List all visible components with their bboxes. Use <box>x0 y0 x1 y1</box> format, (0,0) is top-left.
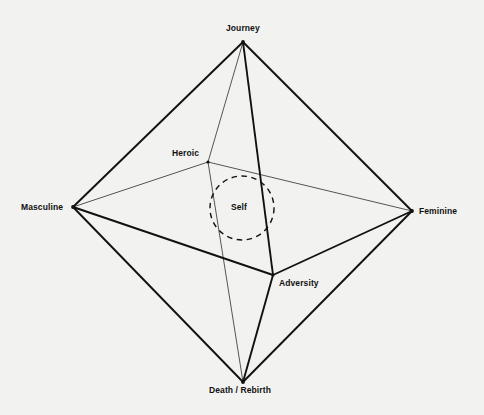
archetype-diagram: Journey Masculine Feminine Death / Rebir… <box>0 0 484 415</box>
edge-heroic-masculine <box>73 162 208 207</box>
vertex-dot-death[interactable] <box>241 380 245 384</box>
vertex-dot-heroic[interactable] <box>206 160 209 163</box>
vertex-dot-group <box>71 40 414 384</box>
vertex-dot-feminine[interactable] <box>410 209 414 213</box>
edge-masculine-death <box>73 207 243 382</box>
thin-edge-group <box>73 42 412 382</box>
vertex-label-journey: Journey <box>226 24 260 33</box>
edge-adversity-feminine <box>273 211 412 275</box>
vertex-dot-adversity[interactable] <box>271 273 274 276</box>
vertex-label-death-rebirth: Death / Rebirth <box>209 386 271 395</box>
vertex-label-adversity: Adversity <box>279 279 319 288</box>
vertex-label-feminine: Feminine <box>419 207 457 216</box>
edge-adversity-masculine <box>73 207 273 275</box>
vertex-label-masculine: Masculine <box>21 203 63 212</box>
center-label-self: Self <box>231 203 247 212</box>
vertex-label-heroic: Heroic <box>172 149 199 158</box>
vertex-dot-journey[interactable] <box>241 40 245 44</box>
edge-journey-masculine <box>73 42 243 207</box>
edge-journey-feminine <box>243 42 412 211</box>
thick-edge-group <box>73 42 412 382</box>
vertex-dot-masculine[interactable] <box>71 205 75 209</box>
